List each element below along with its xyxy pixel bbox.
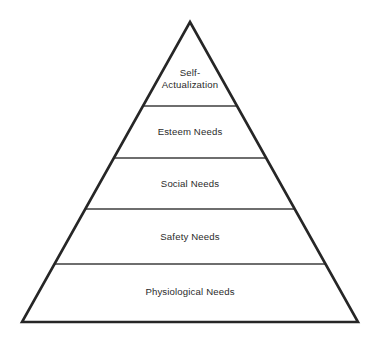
tier-fill-safety-needs [55, 209, 326, 264]
tier-fill-physiological-needs [22, 264, 358, 322]
tier-fill-self-actualization [143, 22, 237, 106]
maslow-pyramid-diagram: Self- Actualization Esteem Needs Social … [0, 0, 380, 348]
pyramid-tier-fills [22, 22, 358, 322]
tier-fill-social-needs [86, 158, 295, 209]
pyramid-graphic [0, 0, 380, 348]
tier-fill-esteem-needs [114, 106, 266, 158]
